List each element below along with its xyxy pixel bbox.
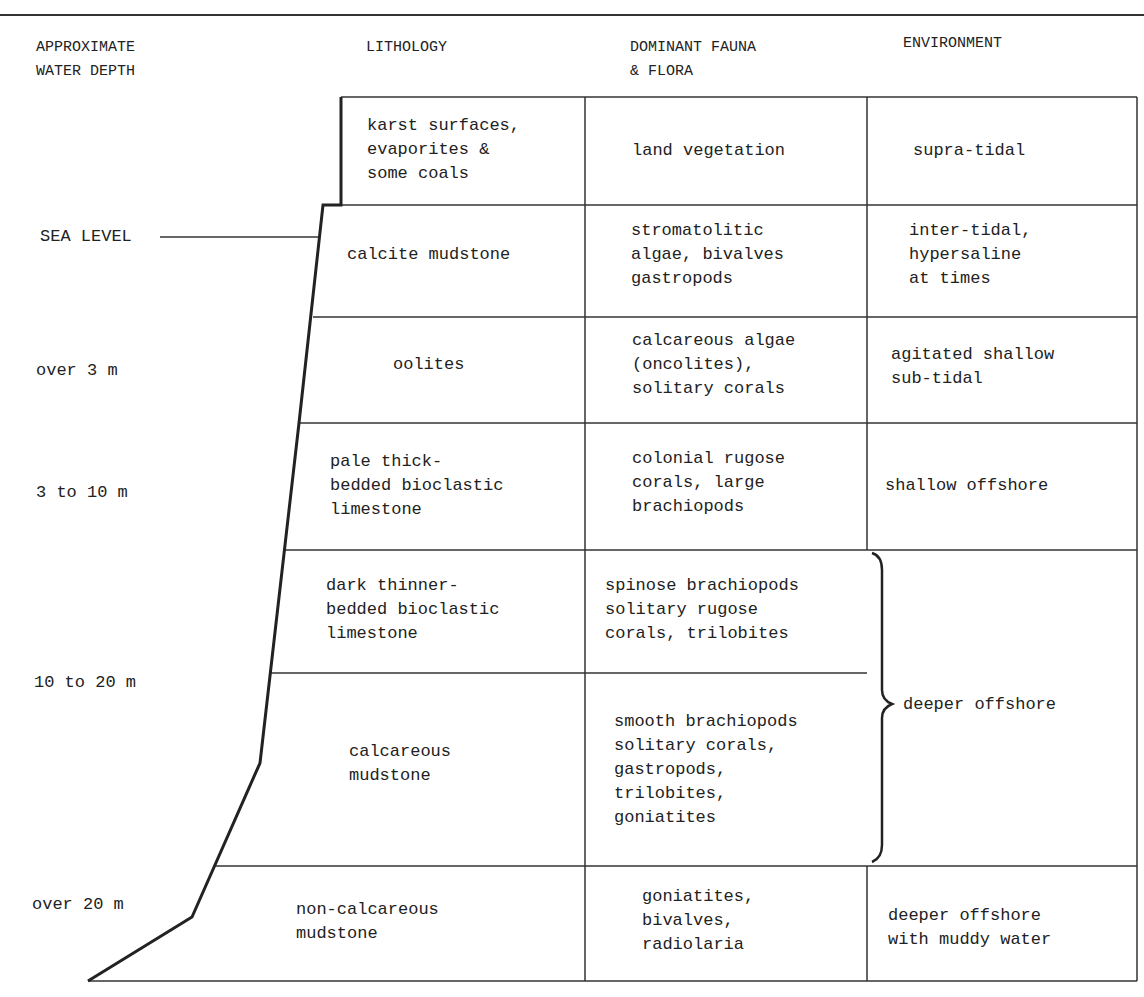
depth-label: 3 to 10 m — [36, 481, 128, 505]
fauna-cell: spinose brachiopods solitary rugose cora… — [605, 574, 799, 646]
lithology-cell: calcite mudstone — [347, 243, 510, 267]
environment-cell: deeper offshore — [903, 693, 1056, 717]
brace-icon — [872, 553, 892, 862]
sea-level-label: SEA LEVEL — [40, 225, 132, 249]
lithology-cell: calcareous mudstone — [349, 740, 451, 788]
lithology-cell: oolites — [393, 353, 464, 377]
fauna-cell: stromatolitic algae, bivalves gastropods — [631, 219, 784, 291]
depth-label: 10 to 20 m — [34, 671, 136, 695]
fauna-cell: goniatites, bivalves, radiolaria — [642, 885, 754, 957]
lithology-cell: pale thick- bedded bioclastic limestone — [330, 450, 503, 522]
lithology-cell: non-calcareous mudstone — [296, 898, 439, 946]
environment-cell: agitated shallow sub-tidal — [891, 343, 1054, 391]
header-depth: APPROXIMATE WATER DEPTH — [36, 36, 135, 84]
depth-label: over 20 m — [32, 893, 124, 917]
fauna-cell: land vegetation — [632, 139, 785, 163]
fauna-cell: smooth brachiopods solitary corals, gast… — [614, 710, 798, 830]
environment-cell: deeper offshore with muddy water — [888, 904, 1051, 952]
environment-cell: shallow offshore — [885, 474, 1048, 498]
fauna-cell: calcareous algae (oncolites), solitary c… — [632, 329, 795, 401]
depth-label: over 3 m — [36, 359, 118, 383]
header-environment: ENVIRONMENT — [903, 32, 1002, 56]
environment-cell: inter-tidal, hypersaline at times — [909, 219, 1031, 291]
fauna-cell: colonial rugose corals, large brachiopod… — [632, 447, 785, 519]
lithology-cell: karst surfaces, evaporites & some coals — [367, 114, 520, 186]
header-fauna: DOMINANT FAUNA & FLORA — [630, 36, 756, 84]
header-lithology: LITHOLOGY — [366, 36, 447, 60]
lithology-cell: dark thinner- bedded bioclastic limeston… — [326, 574, 499, 646]
environment-cell: supra-tidal — [913, 139, 1025, 163]
